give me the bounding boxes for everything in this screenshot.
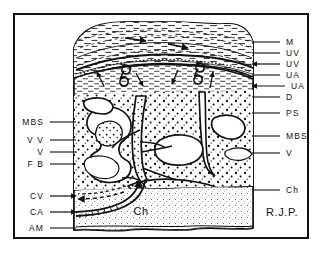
label-mbs2: MBS bbox=[286, 132, 308, 141]
label-ua1: UA bbox=[286, 71, 300, 80]
figure-canvas: MBSV VVF BCVCAAM MUVUVUAUADPSMBSVCh Ch R… bbox=[0, 0, 327, 257]
label-fb: F B bbox=[27, 160, 44, 169]
label-ch: Ch bbox=[286, 186, 299, 195]
label-d: D bbox=[286, 93, 293, 102]
label-uv2: UV bbox=[286, 60, 300, 69]
label-ch-inner: Ch bbox=[134, 206, 149, 217]
label-ua2: UA bbox=[291, 82, 305, 91]
label-cv: CV bbox=[30, 192, 44, 201]
label-am: AM bbox=[29, 224, 44, 233]
artist-signature: R.J.P. bbox=[266, 206, 298, 218]
label-uv1: UV bbox=[286, 49, 300, 58]
label-m: M bbox=[286, 38, 294, 47]
label-v2: V bbox=[286, 149, 293, 158]
label-v: V bbox=[37, 148, 44, 157]
label-mbs: MBS bbox=[22, 118, 44, 127]
label-ca: CA bbox=[30, 208, 44, 217]
label-vv: V V bbox=[27, 136, 44, 145]
placenta-diagram-artwork bbox=[0, 0, 327, 257]
label-ps: PS bbox=[286, 109, 300, 118]
